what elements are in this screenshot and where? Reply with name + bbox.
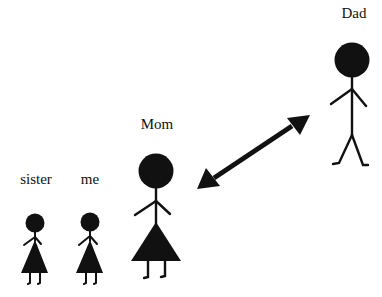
me-figure xyxy=(76,213,103,285)
dad-head xyxy=(335,43,370,78)
mom-dad-arrow xyxy=(197,115,310,189)
sister-head xyxy=(26,214,45,233)
family-diagram xyxy=(0,0,382,297)
me-head xyxy=(81,213,100,232)
sister-figure xyxy=(21,214,48,285)
mom-head xyxy=(139,154,174,189)
mom-figure xyxy=(131,154,181,279)
mom-skirt xyxy=(131,222,181,261)
dad-figure xyxy=(331,43,370,166)
